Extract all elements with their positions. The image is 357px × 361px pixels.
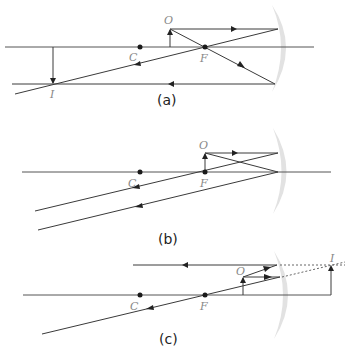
concave-mirror-ray-diagrams: O C F I (a) O C F (b) [0,0,357,361]
concave-mirror [272,5,286,92]
image-arrowhead-icon [50,78,56,84]
label-focus: F [199,177,208,190]
caption-a: (a) [157,92,177,108]
label-image: I [49,88,55,101]
panel-a: O C F I (a) [5,5,314,108]
caption-c: (c) [159,331,178,347]
center-point [138,293,143,298]
focus-point [203,45,208,50]
center-point [138,170,143,175]
label-object: O [164,14,173,27]
center-point [138,45,143,50]
label-focus: F [199,52,208,65]
label-object: O [236,265,245,278]
focus-point [203,170,208,175]
label-center: C [128,177,137,190]
label-image: I [329,252,335,265]
label-center: C [129,51,138,64]
panel-b: O C F (b) [22,128,331,247]
focus-point [203,293,208,298]
caption-b: (b) [158,231,178,247]
panel-c: O C F I (c) [23,251,345,347]
label-center: C [130,300,139,313]
label-object: O [199,139,208,152]
label-focus: F [199,300,208,313]
